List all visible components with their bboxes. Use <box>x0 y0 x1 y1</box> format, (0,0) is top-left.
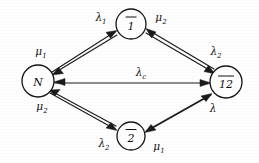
edge-label-1bar-to-n: μ1 <box>35 45 46 60</box>
node-2bar-label: 2 <box>127 132 135 145</box>
edge-n-to-12bar-arrowhead <box>200 80 211 87</box>
edge-label-2bar-to-n-sub: 2 <box>42 107 48 115</box>
edge-label-n-to-2bar-symbol: λ <box>97 137 105 149</box>
diagram-canvas: N 1 2 12 λ1 μ1 λ2 <box>0 0 259 163</box>
edge-12bar-to-2bar <box>145 95 211 133</box>
edge-1bar-to-12bar <box>146 33 215 74</box>
node-n-label: N <box>32 76 43 89</box>
edge-2bar-to-n-line <box>53 92 116 126</box>
edge-label-1bar-to-12bar: λ2 <box>209 45 222 60</box>
edge-label-1bar-to-12bar-sub: 2 <box>216 52 222 60</box>
edge-label-n-to-1bar: λ1 <box>94 11 106 26</box>
edge-label-2bar-to-12bar: λ <box>209 102 217 114</box>
edge-label-12bar-to-2bar: μ1 <box>153 140 164 155</box>
edge-1bar-to-n-line <box>56 35 117 72</box>
node-1bar[interactable]: 1 <box>116 9 146 39</box>
edge-label-n-to-2bar-sub: 2 <box>104 144 110 152</box>
node-n[interactable]: N <box>22 65 54 97</box>
edge-12bar-to-1bar <box>146 29 214 70</box>
edge-label-n-to-2bar: λ2 <box>97 137 110 152</box>
edge-12bar-to-n-arrowhead <box>54 79 65 86</box>
edge-1bar-to-12bar-line <box>146 33 211 71</box>
edge-label-1bar-to-n-sub: 1 <box>42 52 46 60</box>
edge-label-12bar-to-2bar-sub: 1 <box>160 147 164 155</box>
edge-label-n-to-1bar-sub: 1 <box>102 18 106 26</box>
edge-2bar-to-12bar-line <box>146 96 208 131</box>
edge-label-12bar-to-1bar: μ2 <box>155 11 167 26</box>
edge-n-to-12bar <box>54 79 211 87</box>
edge-label-12bar-to-1bar-sub: 2 <box>161 18 167 26</box>
edge-n-to-1bar <box>52 31 117 73</box>
node-2bar[interactable]: 2 <box>117 122 145 150</box>
node-1bar-label: 1 <box>128 20 135 33</box>
edge-label-2bar-to-n: μ2 <box>36 100 48 115</box>
edge-n-to-2bar <box>50 93 117 131</box>
edge-2bar-to-12bar <box>146 94 212 132</box>
edge-n-to-2bar-line <box>50 93 113 128</box>
edge-label-n-to-12bar-sub: c <box>142 73 146 81</box>
node-12bar-label: 12 <box>219 78 233 91</box>
edge-n-to-1bar-line <box>52 33 113 72</box>
edge-label-n-to-12bar-symbol: λ <box>135 66 143 78</box>
edge-12bar-to-2bar-line <box>149 95 211 130</box>
node-12bar[interactable]: 12 <box>210 66 242 98</box>
edge-12bar-to-1bar-line <box>150 31 214 69</box>
edge-label-2bar-to-12bar-symbol: λ <box>209 102 217 114</box>
edge-label-1bar-to-12bar-symbol: λ <box>209 45 217 57</box>
edge-1bar-to-n <box>52 35 117 75</box>
edge-label-n-to-1bar-symbol: λ <box>94 11 102 23</box>
state-transition-diagram: N 1 2 12 λ1 μ1 λ2 <box>0 0 259 163</box>
edge-2bar-to-n <box>49 90 116 127</box>
edge-label-n-to-12bar: λc <box>135 66 147 81</box>
